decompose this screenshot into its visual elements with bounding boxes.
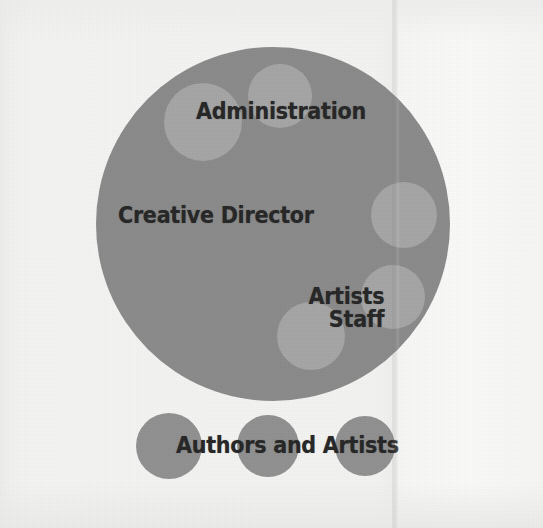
- scan-shadow-top: [0, 0, 543, 40]
- right-upper-circle: [371, 182, 437, 248]
- label-artists-staff: ArtistsStaff: [308, 285, 384, 332]
- label-staff: Staff: [308, 308, 384, 331]
- scan-shadow-left: [0, 0, 30, 528]
- label-administration: Administration: [196, 100, 366, 123]
- label-authors-and-artists: Authors and Artists: [176, 434, 399, 457]
- label-creative-director: Creative Director: [118, 204, 314, 227]
- scan-shadow-bottom: [0, 484, 543, 528]
- scanned-diagram-page: Administration Creative Director Artists…: [0, 0, 543, 528]
- label-artists: Artists: [308, 283, 384, 309]
